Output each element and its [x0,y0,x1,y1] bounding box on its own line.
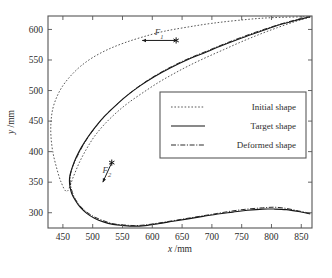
y-tick-label: 600 [29,25,44,35]
x-tick-label: 500 [86,232,101,242]
x-tick-label: 450 [56,232,71,242]
x-tick-label: 850 [294,232,309,242]
x-tick-label: 550 [115,232,130,242]
y-tick-label: 450 [29,116,44,126]
chart-legend: Initial shapeTarget shapeDeformed shape [160,92,306,158]
chart-figure: F1F2 450500550600650700750800850 3003504… [0,0,332,278]
x-tick-label: 650 [175,232,190,242]
y-tick-label: 300 [29,208,44,218]
legend-label: Initial shape [252,102,296,112]
chart-canvas: F1F2 450500550600650700750800850 3003504… [0,0,332,278]
x-axis-title: x /mm [167,244,193,254]
legend-label: Target shape [251,121,296,131]
y-tick-label: 400 [29,147,44,157]
x-tick-label: 600 [145,232,160,242]
legend-label: Deformed shape [237,140,296,150]
y-axis-title: y /mm [6,109,16,135]
y-tick-label: 500 [29,86,44,96]
x-tick-label: 800 [264,232,279,242]
y-tick-label: 350 [29,177,44,187]
x-tick-label: 700 [205,232,220,242]
x-tick-label: 750 [235,232,250,242]
y-tick-label: 550 [29,55,44,65]
